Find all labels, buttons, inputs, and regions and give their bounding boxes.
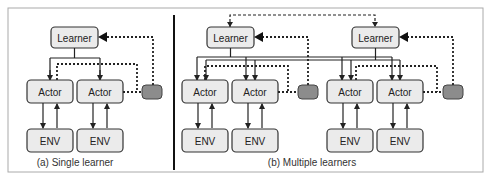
panel-single-learner: Learner Actor Actor ENV [27,27,162,168]
actor-label: Actor [388,87,412,98]
learner-box: Learner [352,27,399,48]
actor-label: Actor [38,87,62,98]
replay-buffer-icon [298,85,318,99]
actor-label: Actor [338,87,362,98]
env-label: ENV [390,136,411,147]
panel-multiple-learners: Learner Learner Actor Actor [182,15,463,168]
env-label: ENV [245,136,266,147]
learner-label: Learner [358,33,393,44]
env-label: ENV [40,136,61,147]
learner-box: Learner [51,27,98,48]
env-label: ENV [90,136,111,147]
env-label: ENV [340,136,361,147]
replay-buffer-icon [443,85,463,99]
learner-label: Learner [57,33,92,44]
env-box: ENV [77,129,123,152]
actor-box: Actor [77,80,123,103]
caption-a: (a) Single learner [37,157,114,168]
caption-b: (b) Multiple learners [268,157,356,168]
replay-buffer-icon [142,85,162,99]
actor-label: Actor [193,87,217,98]
actor-box: Actor [27,80,73,103]
env-label: ENV [195,136,216,147]
env-box: ENV [377,129,423,152]
learner-label: Learner [213,33,248,44]
actor-box: Actor [182,80,228,103]
env-box: ENV [327,129,373,152]
env-box: ENV [182,129,228,152]
diagram-figure: Learner Actor Actor ENV [0,0,490,191]
learner-box: Learner [207,27,254,48]
actor-box: Actor [327,80,373,103]
actor-label: Actor [243,87,267,98]
actor-box: Actor [377,80,423,103]
env-box: ENV [232,129,278,152]
actor-box: Actor [232,80,278,103]
env-box: ENV [27,129,73,152]
actor-label: Actor [88,87,112,98]
